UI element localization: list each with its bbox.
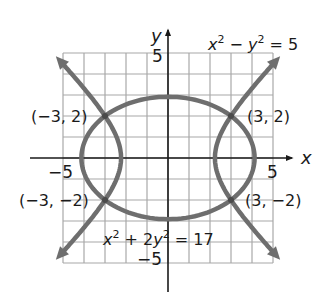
y-axis-label: y — [150, 25, 162, 46]
x-tick-neg5: −5 — [48, 162, 73, 182]
label-point-3-neg2: (3, −2) — [245, 191, 301, 210]
label-point-3-2: (3, 2) — [247, 107, 290, 126]
point-neg3-neg2 — [102, 197, 108, 203]
label-point-neg3-2: (−3, 2) — [31, 107, 87, 126]
point-3-neg2 — [228, 197, 234, 203]
point-3-2 — [228, 113, 234, 119]
graph: y x 5 −5 −5 5 (−3, 2) (3, 2) (−3, −2) (3… — [0, 0, 332, 298]
ellipse-equation: x2 + 2y2 = 17 — [102, 228, 214, 249]
hyperbola-equation: x2 − y2 = 5 — [207, 33, 298, 54]
y-tick-5: 5 — [152, 46, 163, 66]
point-neg3-2 — [102, 113, 108, 119]
y-tick-neg5: −5 — [137, 249, 162, 269]
x-axis-label: x — [300, 147, 312, 168]
label-point-neg3-neg2: (−3, −2) — [19, 191, 89, 210]
x-tick-5: 5 — [267, 162, 278, 182]
